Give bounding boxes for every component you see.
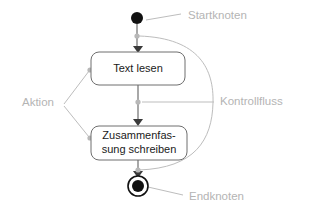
flow-connector-dot-middle [135, 99, 140, 104]
flow-connector-dot-end [135, 167, 140, 172]
action-text-lesen[interactable]: Text lesen [91, 52, 185, 85]
aktion-leader-line-lower [64, 106, 89, 137]
control-flow-read-to-write [133, 85, 143, 126]
action-zusammenfassung-schreiben-label-line1: Zusammenfas- [102, 129, 176, 141]
end-node-disc [132, 180, 144, 192]
annotation-label-kontrollfluss: Kontrollfluss [220, 95, 283, 107]
control-flow-start-to-read [133, 24, 143, 53]
annotation-label-endknoten: Endknoten [189, 190, 244, 202]
flow-connector-dot-start [134, 33, 139, 38]
activity-diagram-svg: Text lesen Zusammenfas- sung schreiben S… [0, 0, 309, 212]
action-text-lesen-label: Text lesen [113, 62, 163, 74]
end-node[interactable] [128, 176, 148, 196]
start-node[interactable] [131, 12, 143, 24]
aktion-leader-line-upper [64, 71, 89, 104]
annotation-label-aktion: Aktion [22, 96, 54, 108]
endknoten-leader-line [148, 187, 183, 195]
action-zusammenfassung-schreiben[interactable]: Zusammenfas- sung schreiben [91, 126, 187, 160]
startknoten-leader-line [146, 14, 181, 20]
activity-diagram-canvas: Text lesen Zusammenfas- sung schreiben S… [0, 0, 309, 212]
control-flow-read-to-write-arrowhead [133, 119, 143, 126]
action-zusammenfassung-schreiben-label-line2: sung schreiben [102, 143, 177, 155]
annotation-label-startknoten: Startknoten [188, 9, 247, 21]
